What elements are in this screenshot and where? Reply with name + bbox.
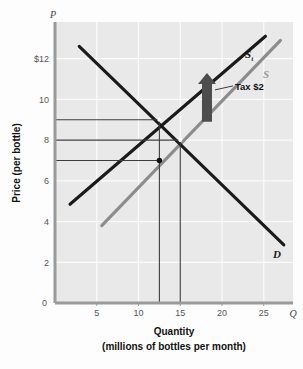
y-axis-tick-labels: 246810$12	[34, 54, 49, 268]
y-tick-label: 10	[39, 95, 49, 105]
point-equilibrium-no-tax	[178, 138, 182, 142]
x-tick-label: 10	[134, 308, 144, 318]
y-tick-label: 6	[44, 176, 49, 186]
x-tick-label: 25	[259, 308, 269, 318]
y-axis-zero-label: 0	[42, 298, 47, 308]
supply-demand-tax-chart: 510152025 246810$12 0 P Q Quantity (mill…	[0, 0, 303, 369]
y-tick-label: 8	[44, 135, 49, 145]
x-axis-title: Quantity	[154, 326, 195, 337]
y-axis-symbol: P	[49, 9, 56, 20]
x-tick-label: 5	[94, 308, 99, 318]
tax-annotation-label: Tax $2	[235, 81, 264, 92]
x-axis-symbol: Q	[289, 308, 297, 319]
x-tick-label: 15	[175, 308, 185, 318]
y-axis-title: Price (per bottle)	[11, 123, 22, 202]
y-tick-label: 4	[44, 217, 49, 227]
x-axis-tick-labels: 510152025	[94, 303, 269, 318]
point-equilibrium-with-tax	[157, 118, 161, 122]
x-axis-subtitle: (millions of bottles per month)	[102, 341, 246, 352]
curve-label-demand: D	[272, 248, 281, 260]
point-price-received-by-sellers	[157, 158, 162, 163]
y-tick-label: 2	[44, 258, 49, 268]
y-tick-label: $12	[34, 54, 49, 64]
x-tick-label: 20	[217, 308, 227, 318]
chart-figure: 510152025 246810$12 0 P Q Quantity (mill…	[0, 0, 303, 369]
curve-label-supply: S	[263, 68, 269, 80]
